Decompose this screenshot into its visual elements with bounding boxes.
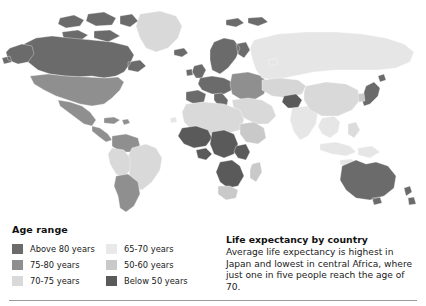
legend-label-65-70: 65-70 years (124, 244, 174, 254)
caption-title: Life expectancy by country (226, 234, 416, 246)
region-korea (358, 93, 365, 102)
map-caption: Life expectancy by country Average life … (226, 234, 416, 293)
legend-swatch-below-50 (106, 276, 117, 286)
legend-label-75-80: 75-80 years (30, 260, 80, 270)
legend-swatch-above-80 (12, 244, 23, 254)
legend-swatch-65-70 (106, 244, 117, 254)
legend-item-above-80[interactable]: Above 80 years (12, 241, 106, 257)
legend-swatch-50-60 (106, 260, 117, 270)
legend-item-70-75[interactable]: 70-75 years (12, 273, 106, 289)
map-legend: Age range Above 80 years 75-80 years 70-… (12, 224, 217, 289)
caption-body: Average life expectancy is highest in Ja… (226, 247, 416, 293)
world-map (0, 0, 426, 216)
legend-item-75-80[interactable]: 75-80 years (12, 257, 106, 273)
world-map-svg (0, 0, 426, 216)
legend-column-left: Above 80 years 75-80 years 70-75 years (12, 241, 106, 289)
bottom-divider (9, 300, 417, 301)
legend-label-above-80: Above 80 years (30, 244, 95, 254)
legend-item-below-50[interactable]: Below 50 years (106, 273, 216, 289)
legend-label-below-50: Below 50 years (124, 276, 188, 286)
legend-column-right: 65-70 years 50-60 years Below 50 years (106, 241, 216, 289)
legend-label-50-60: 50-60 years (124, 260, 174, 270)
legend-title: Age range (12, 224, 217, 235)
legend-swatch-70-75 (12, 276, 23, 286)
legend-item-65-70[interactable]: 65-70 years (106, 241, 216, 257)
legend-item-50-60[interactable]: 50-60 years (106, 257, 216, 273)
legend-swatch-75-80 (12, 260, 23, 270)
region-central-africa (210, 130, 238, 158)
legend-columns: Above 80 years 75-80 years 70-75 years 6… (12, 241, 217, 289)
legend-label-70-75: 70-75 years (30, 276, 80, 286)
